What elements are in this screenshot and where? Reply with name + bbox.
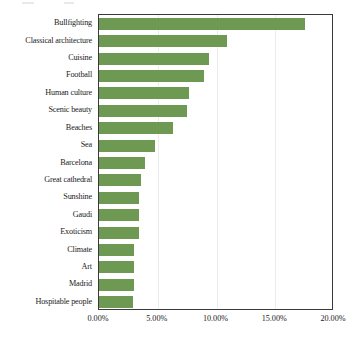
category-label: Scenic beauty (0, 105, 92, 114)
bar (99, 244, 134, 256)
bar (99, 227, 139, 239)
gridline (275, 15, 276, 309)
category-label: Sunshine (0, 192, 92, 201)
bar (99, 18, 305, 30)
bar (99, 140, 155, 152)
bar (99, 157, 145, 169)
bar (99, 87, 189, 99)
scan-artifact (22, 2, 34, 4)
bar (99, 279, 134, 291)
category-label: Madrid (0, 279, 92, 288)
bar (99, 209, 139, 221)
category-label: Classical architecture (0, 36, 92, 45)
value-axis: 0.00%5.00%10.00%15.00%20.00% (0, 313, 359, 327)
value-tick-label: 0.00% (68, 313, 128, 324)
bar (99, 174, 141, 186)
category-label: Great cathedral (0, 175, 92, 184)
bar (99, 261, 134, 273)
category-label: Hospitable people (0, 297, 92, 306)
bar (99, 105, 187, 117)
value-tick-label: 15.00% (244, 313, 304, 324)
bar (99, 122, 173, 134)
bar (99, 53, 209, 65)
category-label: Beaches (0, 123, 92, 132)
plot-area (98, 14, 333, 310)
category-label: Football (0, 70, 92, 79)
value-tick-label: 5.00% (127, 313, 187, 324)
category-label: Barcelona (0, 158, 92, 167)
bar (99, 192, 139, 204)
category-label: Sea (0, 140, 92, 149)
category-label: Bullfighting (0, 18, 92, 27)
bar (99, 35, 227, 47)
category-label: Gaudi (0, 210, 92, 219)
bar (99, 296, 133, 308)
category-label: Climate (0, 245, 92, 254)
bar-chart: BullfightingClassical architectureCuisin… (0, 0, 359, 344)
scan-artifact (64, 2, 74, 4)
value-tick-label: 10.00% (186, 313, 246, 324)
gridline (217, 15, 218, 309)
category-label: Cuisine (0, 53, 92, 62)
category-label: Exoticism (0, 227, 92, 236)
category-axis: BullfightingClassical architectureCuisin… (0, 14, 95, 310)
bar (99, 70, 204, 82)
category-label: Human culture (0, 88, 92, 97)
category-label: Art (0, 262, 92, 271)
value-tick-label: 20.00% (303, 313, 359, 324)
